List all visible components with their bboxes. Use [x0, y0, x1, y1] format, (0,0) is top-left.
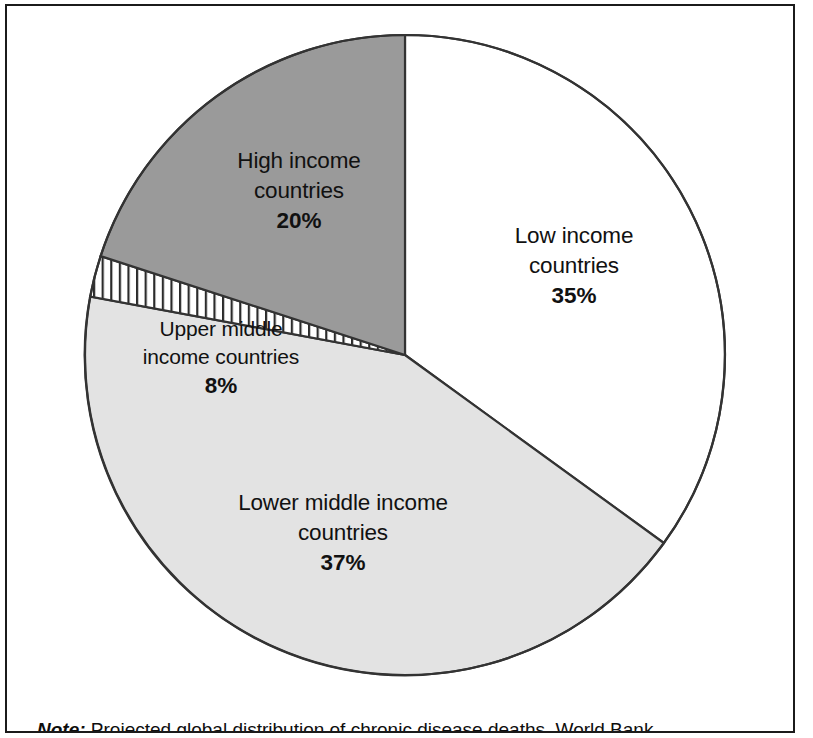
pie-label-lower-middle-income-line1: Lower middle income — [193, 488, 493, 518]
pie-value-lower-middle-income: 37% — [193, 548, 493, 578]
pie-value-upper-middle-income: 8% — [73, 371, 369, 401]
figure-note-text: Projected global distribution of chronic… — [86, 719, 654, 733]
pie-label-upper-middle-income-line1: Upper middle — [73, 315, 369, 343]
pie-chart: Low income countries 35% Lower middle in… — [7, 6, 793, 696]
pie-label-high-income: High income countries 20% — [167, 146, 431, 236]
figure-note: Note: Projected global distribution of c… — [37, 718, 777, 733]
pie-label-lower-middle-income-line2: countries — [193, 518, 493, 548]
pie-label-high-income-line1: High income — [167, 146, 431, 176]
pie-value-low-income: 35% — [454, 281, 694, 311]
pie-label-high-income-line2: countries — [167, 176, 431, 206]
pie-value-high-income: 20% — [167, 206, 431, 236]
pie-label-low-income-line1: Low income — [454, 221, 694, 251]
pie-label-lower-middle-income: Lower middle income countries 37% — [193, 488, 493, 578]
figure-note-label: Note: — [37, 719, 86, 733]
figure-frame: Low income countries 35% Lower middle in… — [5, 4, 795, 733]
pie-label-upper-middle-income: Upper middle income countries 8% — [73, 315, 369, 401]
pie-label-low-income-line2: countries — [454, 251, 694, 281]
pie-label-low-income: Low income countries 35% — [454, 221, 694, 311]
pie-label-upper-middle-income-line2: income countries — [73, 343, 369, 371]
